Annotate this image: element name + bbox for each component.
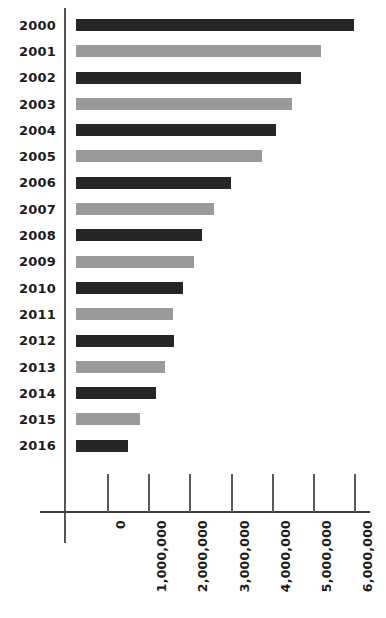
tick-mark-5 [313, 474, 315, 512]
tick-label-2: 2,000,000 [195, 520, 210, 592]
tick-mark-0 [107, 474, 109, 512]
tick-mark-3 [231, 474, 233, 512]
tick-label-4: 4,000,000 [278, 520, 293, 592]
bar-chart: 2000200120022003200420052006200720082009… [0, 0, 386, 618]
tick-label-0: 0 [113, 520, 128, 529]
tick-label-3: 3,000,000 [237, 520, 252, 592]
tick-mark-6 [354, 474, 356, 512]
tick-mark-1 [148, 474, 150, 512]
plot-area: 2000200120022003200420052006200720082009… [0, 0, 386, 618]
tick-mark-4 [272, 474, 274, 512]
tick-label-6: 6,000,000 [360, 520, 375, 592]
tick-label-5: 5,000,000 [319, 520, 334, 592]
value-axis-ticks: 01,000,0002,000,0003,000,0004,000,0005,0… [0, 0, 386, 618]
tick-label-1: 1,000,000 [154, 520, 169, 592]
tick-mark-2 [189, 474, 191, 512]
